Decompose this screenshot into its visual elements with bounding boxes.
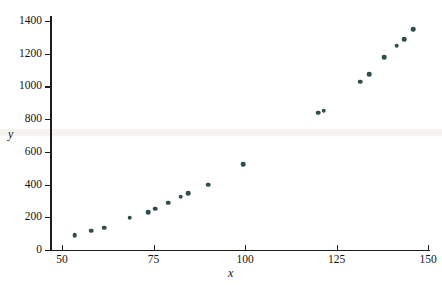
scatter-point [382,55,387,60]
x-tick-mark [337,245,338,250]
scatter-point [73,233,78,238]
scatter-point [367,72,372,77]
y-tick-label: 200 [0,211,42,223]
y-axis-label: y [8,127,13,142]
scatter-point [411,27,416,32]
y-tick-label: 0 [0,244,42,256]
paper-scan-band [0,129,442,136]
x-tick-mark [428,245,429,250]
x-tick-mark [245,245,246,250]
y-tick-label: 800 [0,113,42,125]
scatter-point [321,108,326,113]
y-tick-mark [45,217,50,218]
x-tick-label: 100 [225,254,265,266]
y-tick-mark [45,86,50,87]
x-tick-label: 75 [134,254,174,266]
y-axis-line [50,16,52,251]
x-axis-label: x [228,266,233,281]
y-tick-label: 600 [0,146,42,158]
scatter-point [153,206,158,211]
scatter-point [102,225,107,230]
scatter-point [402,37,407,42]
x-tick-label: 50 [42,254,82,266]
y-tick-mark [45,250,50,251]
scatter-point [358,79,363,84]
scatter-point [89,228,94,233]
y-tick-label: 1200 [0,48,42,60]
x-tick-mark [62,245,63,250]
scatter-point [395,43,400,48]
scatter-point [186,191,191,196]
y-tick-label: 1400 [0,15,42,27]
scatter-point [179,194,184,199]
scatter-point [206,182,211,187]
scatter-point [166,201,171,206]
scatter-plot: 02004006008001000120014005075100125150 y… [0,0,442,288]
scatter-point [127,216,132,221]
y-tick-mark [45,119,50,120]
y-tick-mark [45,21,50,22]
x-axis-line [50,250,430,251]
y-tick-mark [45,54,50,55]
y-tick-mark [45,185,50,186]
y-tick-mark [45,152,50,153]
x-tick-mark [154,245,155,250]
x-tick-label: 125 [317,254,357,266]
scatter-point [316,111,321,116]
y-tick-label: 1000 [0,80,42,92]
scatter-point [146,210,151,215]
x-tick-label: 150 [408,254,442,266]
y-tick-label: 400 [0,179,42,191]
scatter-point [241,162,246,167]
